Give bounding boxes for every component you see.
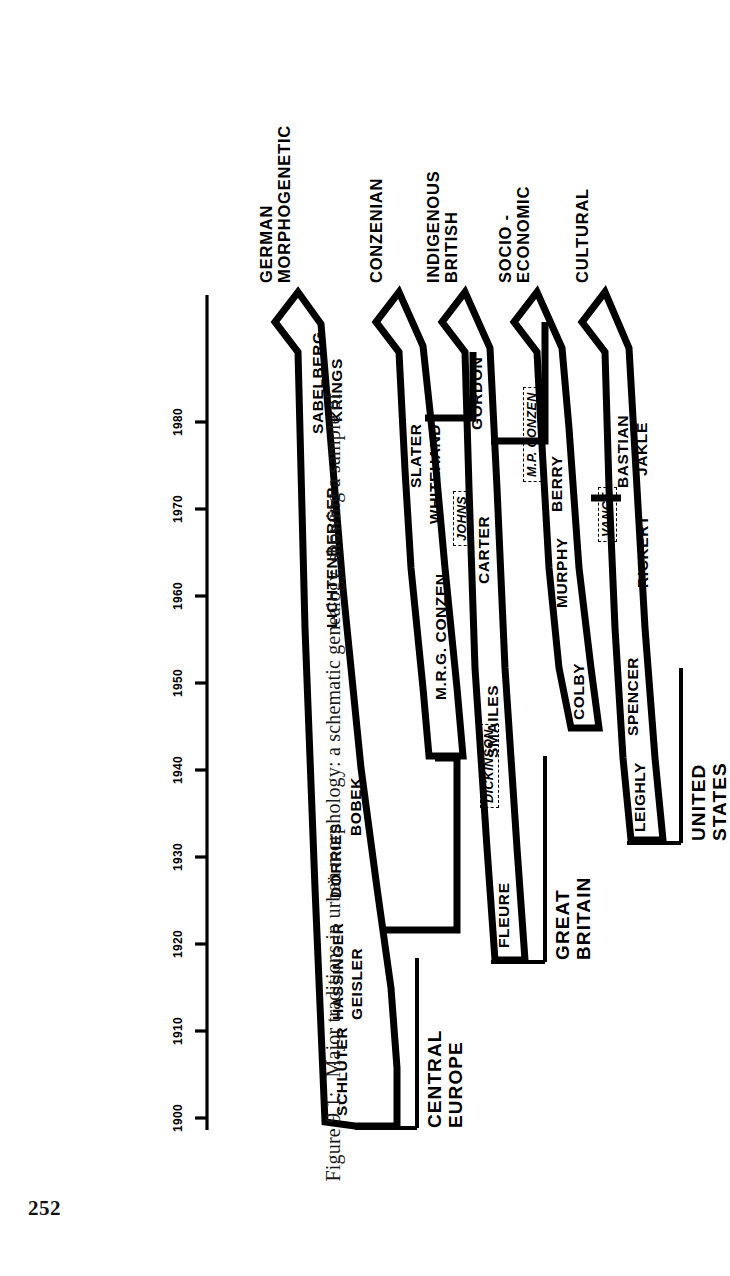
tick-label-1970: 1970 [171,495,185,523]
figure-genealogy-diagram: 1900 1910 1920 1930 1940 1950 1960 1970 … [25,88,685,1188]
tradition-label-conzenian: CONZENIAN [368,178,385,283]
link-label-dickinson: DICKINSON [480,724,499,808]
tick-label-1910: 1910 [171,1017,185,1045]
region-label-states: STATES [710,762,730,841]
scholar-carter: CARTER [475,516,493,584]
scholar-gordon: GORDON [468,357,486,430]
page-number: 252 [28,1196,61,1221]
tradition-label-german: GERMAN [258,205,275,283]
figure-caption: Figure 9.1:Major traditions in urban mor… [322,42,345,1182]
tradition-label-socio: SOCIO - [497,214,514,283]
scholar-mrg-conzen: M.R.G. CONZEN [432,573,450,700]
region-label-united: UNITED [689,764,710,841]
region-label-britain: BRITAIN [574,877,595,960]
tradition-label-indigenous: INDIGENOUS [425,170,442,283]
tick-label-1920: 1920 [171,930,185,958]
scholar-jakle: JAKLE [633,422,651,476]
scholar-colby: COLBY [570,663,588,720]
tick-label-1940: 1940 [171,756,185,784]
tick-label-1960: 1960 [171,582,185,610]
link-label-mp-conzen: M.P. CONZEN [523,387,542,482]
figure-number: Figure 9.1: [322,1092,344,1182]
tradition-label-cultural: CULTURAL [574,188,591,283]
tradition-label-british: BRITISH [443,211,460,283]
link-label-johns: JOHNS [453,491,472,546]
scholar-slater: SLATER [407,424,425,488]
scholar-bastian: BASTIAN [614,415,632,488]
tick-label-1930: 1930 [171,843,185,871]
scholar-leighly: LEIGHLY [631,762,649,832]
tick-label-1980: 1980 [171,408,185,436]
scholar-fleure: FLEURE [495,882,513,948]
region-label-great: GREAT [553,889,574,960]
tradition-label-morphogenetic: MORPHOGENETIC [276,125,293,283]
scholar-bobek: BOBEK [347,777,365,836]
tick-label-1900: 1900 [171,1104,185,1132]
scholar-spencer: SPENCER [624,657,642,736]
scholar-rickert: RICKERT [634,515,652,588]
scholar-berry: BERRY [548,455,566,512]
scholar-geisler: GEISLER [348,948,366,1020]
scholar-murphy: MURPHY [553,537,571,608]
tradition-label-economic: ECONOMIC [515,186,532,283]
time-axis [195,295,207,1130]
figure-caption-text: Major traditions in urban morphology: a … [322,393,344,1078]
scholar-whitehand: WHITEHAND [426,424,444,524]
tick-label-1950: 1950 [171,669,185,697]
region-label-central: CENTRAL [425,1030,446,1128]
link-label-vance: VANCE [598,487,617,542]
region-label-europe: EUROPE [446,1041,467,1128]
connector-dickinson [385,758,457,930]
